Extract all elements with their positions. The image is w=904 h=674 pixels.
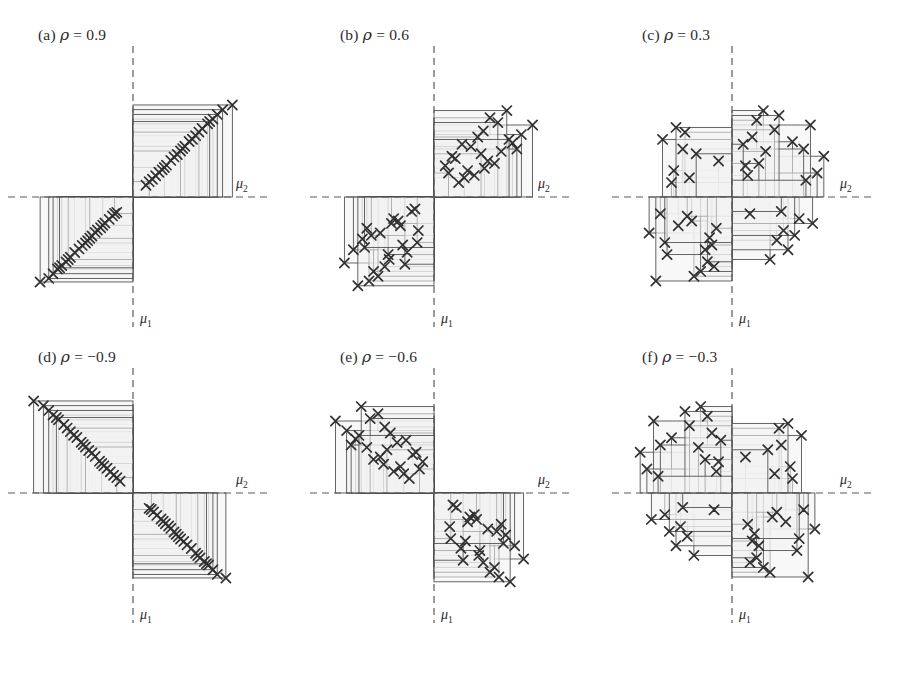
axis-label-mu1-e: μ1 xyxy=(441,607,453,625)
panel-c: (c) ρ = 0.3μ2μ1 xyxy=(604,18,904,348)
axis-label-mu2-c: μ2 xyxy=(840,176,852,194)
axis-label-mu2-d: μ2 xyxy=(236,472,248,490)
confidence-rectangle xyxy=(683,493,732,507)
figure-confidence-rectangles: (a) ρ = 0.9μ2μ1 (b) ρ = 0.6μ2μ1 (c) ρ = … xyxy=(0,0,904,674)
panel-e: (e) ρ = −0.6μ2μ1 xyxy=(302,340,602,670)
axis-label-mu2-e: μ2 xyxy=(538,472,550,490)
confidence-rectangles-c xyxy=(649,111,824,281)
plot-canvas-f xyxy=(604,340,904,670)
panel-a: (a) ρ = 0.9μ2μ1 xyxy=(0,18,300,348)
plot-canvas-a xyxy=(0,18,300,348)
panel-f: (f) ρ = −0.3μ2μ1 xyxy=(604,340,904,670)
axis-label-mu2-f: μ2 xyxy=(840,472,852,490)
confidence-rectangle xyxy=(732,180,806,197)
plot-canvas-b xyxy=(302,18,602,348)
confidence-rectangle xyxy=(696,154,732,197)
confidence-rectangles-b xyxy=(344,111,532,286)
running-header xyxy=(0,0,904,8)
confidence-rectangle xyxy=(732,493,799,539)
plot-canvas-c xyxy=(604,18,904,348)
axis-label-mu1-d: μ1 xyxy=(140,607,152,625)
panel-b: (b) ρ = 0.6μ2μ1 xyxy=(302,18,602,348)
confidence-rectangle xyxy=(732,450,768,493)
axis-label-mu1-a: μ1 xyxy=(140,311,152,329)
axis-label-mu1-c: μ1 xyxy=(739,311,751,329)
axis-label-mu1-b: μ1 xyxy=(441,311,453,329)
confidence-rectangle xyxy=(665,197,732,243)
confidence-rectangles-f xyxy=(640,407,815,577)
panel-d: (d) ρ = −0.9μ2μ1 xyxy=(0,340,300,670)
axis-label-mu2-b: μ2 xyxy=(538,176,550,194)
confidence-rectangles-e xyxy=(335,407,523,582)
confidence-rectangle xyxy=(732,197,781,211)
confidence-rectangle xyxy=(658,476,732,493)
axis-label-mu2-a: μ2 xyxy=(236,176,248,194)
axis-label-mu1-f: μ1 xyxy=(739,607,751,625)
